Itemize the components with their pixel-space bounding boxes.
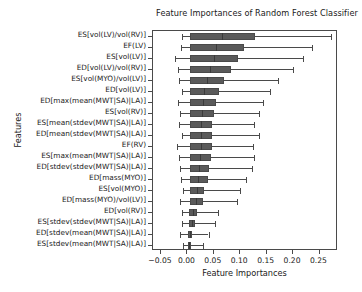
whisker-cap-low xyxy=(182,210,183,216)
y-tick-label: ED[mass(MYO)] xyxy=(89,174,146,182)
median-line xyxy=(204,88,205,96)
y-tick-label: ED[stdev(mean(MWT|SA)|LA)] xyxy=(36,229,146,237)
whisker-cap-high xyxy=(303,56,304,62)
median-line xyxy=(201,121,202,129)
median-line xyxy=(202,110,203,118)
y-tick-label: ES[vol(MYO)] xyxy=(98,185,146,193)
whisker-cap-high xyxy=(259,133,260,139)
whisker-line xyxy=(180,234,208,235)
whisker-cap-high xyxy=(215,221,216,227)
y-tick-label: ES[vol(LV)] xyxy=(106,53,146,61)
median-line xyxy=(189,242,190,250)
x-tick-mark xyxy=(319,250,320,254)
x-tick-label: 0.20 xyxy=(284,256,301,265)
median-line xyxy=(193,209,194,217)
y-tick-label: ED[stdev(stdev(MWT|SA)|LA)] xyxy=(37,163,146,171)
x-tick-label: 0.00 xyxy=(178,256,195,265)
whisker-cap-high xyxy=(209,232,210,238)
median-line xyxy=(197,187,198,195)
whisker-line xyxy=(182,223,215,224)
y-tick-label: ED[mean(stdev(MWT|SA)|LA)] xyxy=(36,130,146,138)
whisker-cap-low xyxy=(183,243,184,249)
whisker-cap-high xyxy=(331,34,332,40)
whisker-cap-low xyxy=(179,122,180,128)
whisker-cap-low xyxy=(183,188,184,194)
whisker-cap-low xyxy=(180,232,181,238)
whisker-cap-low xyxy=(178,100,179,106)
x-tick-label: −0.05 xyxy=(148,256,171,265)
x-tick-mark xyxy=(239,250,240,254)
whisker-cap-high xyxy=(254,155,255,161)
median-line xyxy=(201,132,202,140)
whisker-cap-low xyxy=(181,45,182,51)
whisker-line xyxy=(183,245,203,246)
median-line xyxy=(222,33,223,41)
whisker-cap-high xyxy=(254,122,255,128)
whisker-cap-high xyxy=(259,111,260,117)
whisker-line xyxy=(177,146,254,147)
whisker-cap-low xyxy=(180,111,181,117)
whisker-cap-low xyxy=(177,144,178,150)
x-axis-label: Feature Importances xyxy=(152,268,337,278)
median-line xyxy=(210,66,211,74)
median-line xyxy=(190,231,191,239)
whisker-cap-high xyxy=(240,188,241,194)
y-tick-label: ED[mass(MYO)/vol(LV)] xyxy=(62,196,146,204)
whisker-cap-high xyxy=(293,67,294,73)
whisker-cap-high xyxy=(252,166,253,172)
x-tick-label: 0.25 xyxy=(310,256,327,265)
whisker-cap-low xyxy=(181,177,182,183)
median-line xyxy=(214,55,215,63)
median-line xyxy=(200,154,201,162)
whisker-cap-low xyxy=(175,56,176,62)
y-tick-label: ED[vol(LV)/vol(RV)] xyxy=(77,64,146,72)
y-tick-label: ES[max(mean(MWT|SA)|LA)] xyxy=(41,152,146,160)
x-tick-mark xyxy=(266,250,267,254)
y-tick-label: ES[vol(MYO)/vol(LV)] xyxy=(71,75,146,83)
whisker-cap-high xyxy=(203,243,204,249)
y-tick-label: EF(LV) xyxy=(123,42,146,50)
whisker-cap-high xyxy=(253,144,254,150)
chart-title: Feature Importances of Random Forest Cla… xyxy=(152,8,362,18)
x-tick-label: 0.10 xyxy=(231,256,248,265)
whisker-cap-high xyxy=(263,100,264,106)
y-tick-label: ES[stdev(mean(MWT|SA)|LA)] xyxy=(37,240,146,248)
whisker-cap-high xyxy=(218,210,219,216)
x-tick-label: 0.15 xyxy=(257,256,274,265)
x-tick-mark xyxy=(160,250,161,254)
y-tick-label: ES[mean(stdev(MWT|SA)|LA)] xyxy=(37,119,146,127)
median-line xyxy=(201,143,202,151)
whisker-cap-low xyxy=(178,67,179,73)
median-line xyxy=(198,176,199,184)
median-line xyxy=(196,198,197,206)
median-line xyxy=(203,99,204,107)
whisker-cap-low xyxy=(180,166,181,172)
y-tick-label: EF(RV) xyxy=(122,141,146,149)
median-line xyxy=(199,165,200,173)
x-tick-mark xyxy=(213,250,214,254)
whisker-cap-low xyxy=(182,221,183,227)
y-tick-label: ED[vol(RV)] xyxy=(104,207,146,215)
x-tick-label: 0.05 xyxy=(204,256,221,265)
y-tick-label: ES[vol(LV)/vol(RV)] xyxy=(78,31,146,39)
whisker-cap-high xyxy=(270,89,271,95)
whisker-cap-high xyxy=(278,78,279,84)
median-line xyxy=(216,44,217,52)
x-tick-mark xyxy=(292,250,293,254)
median-line xyxy=(207,77,208,85)
whisker-cap-high xyxy=(237,199,238,205)
whisker-cap-low xyxy=(179,78,180,84)
whisker-cap-low xyxy=(179,155,180,161)
y-tick-label-group: ES[vol(LV)/vol(RV)]EF(LV)ES[vol(LV)]ED[v… xyxy=(0,30,146,250)
y-tick-label: ED[vol(LV)] xyxy=(105,86,146,94)
y-tick-label: ED[max(mean(MWT|SA)|LA)] xyxy=(40,97,146,105)
x-tick-mark xyxy=(186,250,187,254)
figure-boxplot-feature-importances: Feature Importances of Random Forest Cla… xyxy=(0,0,362,292)
whisker-cap-high xyxy=(312,45,313,51)
plot-area xyxy=(152,30,337,250)
whisker-cap-low xyxy=(180,199,181,205)
whisker-line xyxy=(182,212,218,213)
y-tick-label: ES[stdev(stdev(MWT|SA)|LA)] xyxy=(38,218,146,226)
y-tick-label: ES[vol(RV)] xyxy=(105,108,146,116)
whisker-cap-low xyxy=(182,34,183,40)
